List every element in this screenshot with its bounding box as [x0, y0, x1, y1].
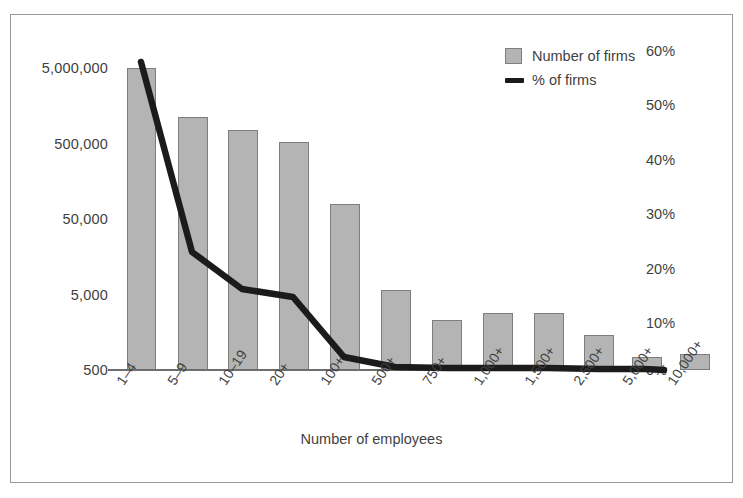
bar-10-19	[228, 130, 258, 370]
y-axis-right-tick: 40%	[646, 152, 675, 168]
legend-item-label: Number of firms	[532, 48, 635, 64]
chart-legend: Number of firms % of firms	[505, 44, 675, 92]
chart-figure: 5,000,000 500,000 50,000 5,000 500 60% 5…	[0, 0, 743, 498]
x-axis-title: Number of employees	[0, 431, 743, 447]
legend-item-label: % of firms	[532, 72, 596, 88]
y-axis-left-tick: 500	[83, 362, 108, 378]
legend-square-swatch-icon	[505, 48, 522, 64]
y-axis-left: 5,000,000 500,000 50,000 5,000 500	[20, 0, 108, 498]
y-axis-right-tick: 30%	[646, 206, 675, 222]
plot-area	[113, 55, 630, 370]
y-axis-right-tick: 20%	[646, 261, 675, 277]
bar-5-9	[178, 117, 208, 370]
legend-item-percent-of-firms: % of firms	[505, 68, 675, 92]
bar-100plus	[330, 204, 360, 370]
legend-item-number-of-firms: Number of firms	[505, 44, 675, 68]
y-axis-left-tick: 5,000	[71, 287, 108, 303]
y-axis-right-tick: 50%	[646, 97, 675, 113]
bar-1-4	[127, 68, 156, 370]
y-axis-left-tick: 5,000,000	[42, 60, 108, 76]
y-axis-left-tick: 500,000	[54, 136, 108, 152]
y-axis-right-tick: 10%	[646, 315, 675, 331]
y-axis-left-tick: 50,000	[62, 211, 108, 227]
legend-line-swatch-icon	[505, 78, 524, 83]
bar-20plus	[279, 142, 309, 370]
